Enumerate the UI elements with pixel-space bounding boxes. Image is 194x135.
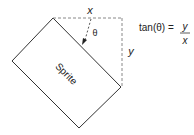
formula-denominator: x — [182, 35, 189, 46]
angle-arrow-head-icon — [82, 38, 87, 45]
y-label: y — [127, 45, 135, 57]
formula-numerator: y — [182, 21, 189, 32]
theta-label: θ — [92, 28, 97, 38]
formula-lhs: tan(θ) = — [139, 22, 174, 33]
angle-arrow-line — [85, 19, 91, 40]
sprite-rotation-diagram: Sprite x θ y tan(θ) = y x — [0, 0, 194, 135]
x-label: x — [86, 4, 93, 16]
